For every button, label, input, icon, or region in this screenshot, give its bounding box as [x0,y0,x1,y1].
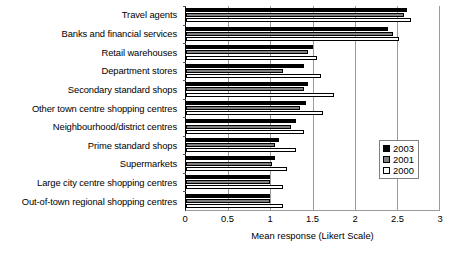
category-label: Department stores [0,62,181,81]
bar [186,106,300,110]
bar-group [186,6,439,25]
legend-label: 2003 [393,144,414,153]
bar [186,101,306,105]
bar [186,50,308,54]
bar [186,27,388,31]
bar [186,37,399,41]
category-label: Large city centre shopping centres [0,174,181,193]
bar [186,119,296,123]
bar-group [186,117,439,136]
bar [186,162,272,166]
x-axis-ticks: 00.511.522.53 [185,213,440,227]
bar-group [186,43,439,62]
category-label: Out-of-town regional shopping centres [0,192,181,211]
category-label: Neighbourhood/district centres [0,118,181,137]
category-label: Prime standard shops [0,136,181,155]
bar [186,204,283,208]
bar [186,180,270,184]
bar [186,143,275,147]
category-label: Secondary standard shops [0,81,181,100]
bar [186,74,321,78]
bar [186,199,270,203]
x-tick-label: 3 [437,213,442,225]
legend-swatch-icon [383,167,390,174]
bar [186,93,334,97]
legend-label: 2001 [393,155,414,164]
bar [186,156,275,160]
bar-group [186,99,439,118]
bar-group [186,191,439,210]
bar [186,13,404,17]
x-tick-label: 0 [182,213,187,225]
bar-group [186,62,439,81]
bar [186,125,291,129]
bar [186,64,304,68]
bar [186,32,393,36]
legend-item: 2003 [383,144,414,153]
legend: 200320012000 [379,140,419,179]
category-label: Other town centre shopping centres [0,99,181,118]
bar [186,69,283,73]
plot-area [185,6,440,211]
bar [186,87,304,91]
legend-swatch-icon [383,145,390,152]
bar [186,185,283,189]
bar-group [186,25,439,44]
bar [186,18,411,22]
category-axis-labels: Travel agentsBanks and financial service… [0,6,181,211]
x-axis-title: Mean response (Likert Scale) [185,230,440,241]
bar [186,148,296,152]
bar-chart: Travel agentsBanks and financial service… [0,0,455,268]
category-label: Travel agents [0,6,181,25]
x-tick-label: 2.5 [391,213,404,225]
x-tick-label: 2 [352,213,357,225]
bar [186,8,407,12]
bar [186,194,270,198]
bar [186,56,317,60]
legend-label: 2000 [393,166,414,175]
category-label: Supermarkets [0,155,181,174]
bar-groups [186,6,439,210]
bar [186,45,313,49]
category-label: Banks and financial services [0,25,181,44]
bar [186,82,308,86]
bar [186,167,287,171]
x-tick-label: 1.5 [306,213,319,225]
legend-swatch-icon [383,156,390,163]
bar [186,130,304,134]
bar [186,138,279,142]
x-tick-label: 1 [267,213,272,225]
bar-group [186,80,439,99]
legend-item: 2000 [383,166,414,175]
x-tick-label: 0.5 [221,213,234,225]
bar [186,175,270,179]
legend-item: 2001 [383,155,414,164]
bar [186,111,323,115]
category-label: Retail warehouses [0,43,181,62]
